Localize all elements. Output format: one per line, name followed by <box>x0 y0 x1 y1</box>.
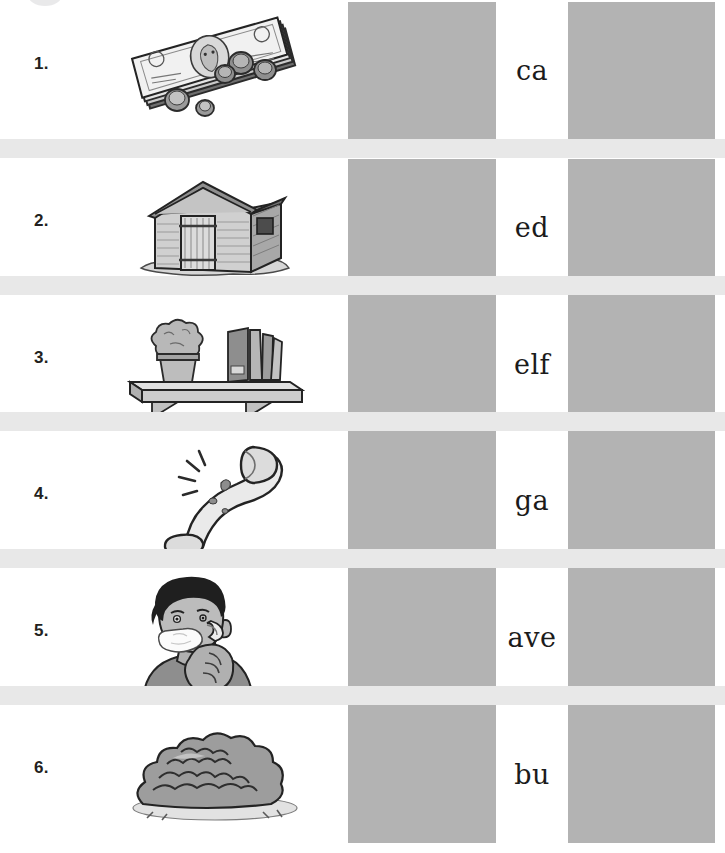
bush-shrub-icon <box>96 706 334 843</box>
money-cash-icon <box>96 2 334 139</box>
row-number: 1. <box>34 54 49 74</box>
row-number: 3. <box>34 348 49 368</box>
row-separator-band <box>0 686 725 705</box>
worksheet-row: 1. <box>0 2 725 139</box>
row-number: 6. <box>34 758 49 778</box>
answer-box-first[interactable] <box>348 2 496 139</box>
row-separator-band <box>0 139 725 158</box>
worksheet-row: 6. bu <box>0 706 725 843</box>
letter-prompt: ca <box>496 2 568 139</box>
row-separator-band <box>0 412 725 431</box>
row-separator-band <box>0 549 725 568</box>
worksheet-grid: 1. <box>0 0 725 853</box>
row-number: 4. <box>34 484 49 504</box>
answer-box-second[interactable] <box>568 706 715 843</box>
answer-box-second[interactable] <box>568 2 715 139</box>
row-number: 5. <box>34 621 49 641</box>
row-number: 2. <box>34 211 49 231</box>
row-separator-band <box>0 276 725 295</box>
letter-prompt: bu <box>496 706 568 843</box>
answer-box-first[interactable] <box>348 706 496 843</box>
